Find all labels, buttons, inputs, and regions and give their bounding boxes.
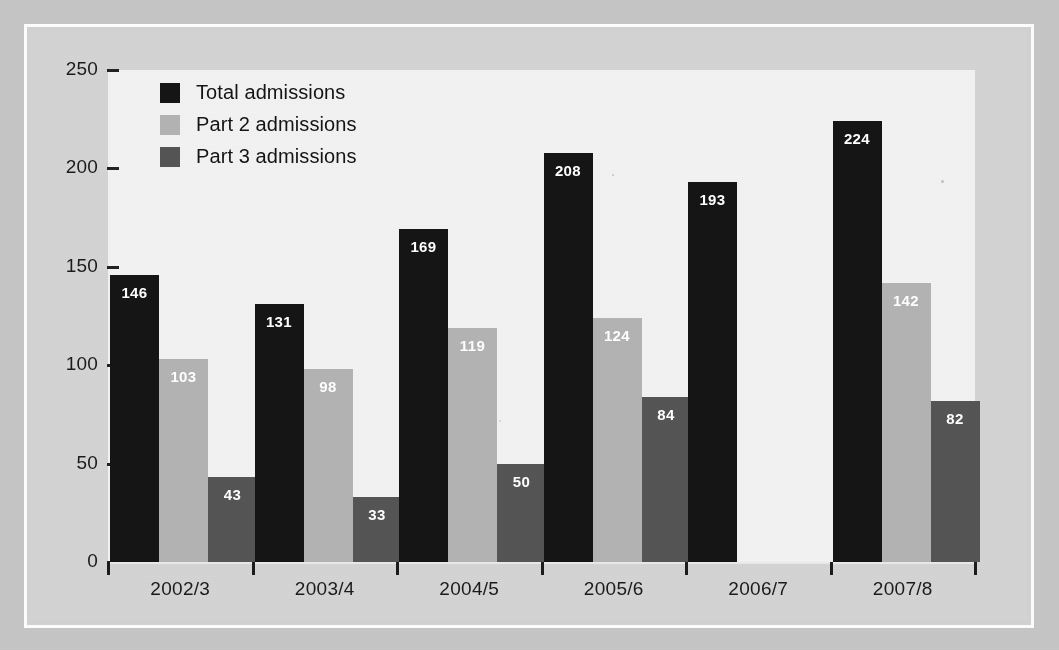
bar-value-label: 50 — [497, 473, 546, 490]
bar-value-label: 224 — [833, 130, 882, 147]
bar-value-label: 146 — [110, 284, 159, 301]
y-axis-tick — [107, 167, 119, 170]
bar-value-label: 43 — [208, 486, 257, 503]
bar: 208 — [544, 153, 593, 562]
bar: 193 — [688, 182, 737, 562]
bar-value-label: 82 — [931, 410, 980, 427]
y-axis-tick-label: 200 — [66, 156, 98, 178]
y-axis-tick-label: 100 — [66, 353, 98, 375]
legend-label: Part 3 admissions — [196, 145, 357, 168]
y-axis-tick-labels: 050100150200250 — [40, 70, 98, 563]
legend-swatch-icon — [160, 147, 180, 167]
y-axis-tick — [107, 266, 119, 269]
outer-frame: 050100150200250 2002/32003/42004/52005/6… — [0, 0, 1059, 650]
bar: 50 — [497, 464, 546, 562]
bar-value-label: 124 — [593, 327, 642, 344]
chart-legend: Total admissionsPart 2 admissionsPart 3 … — [160, 78, 357, 174]
bar: 98 — [304, 369, 353, 562]
bar-value-label: 193 — [688, 191, 737, 208]
bar-value-label: 208 — [544, 162, 593, 179]
bar: 169 — [399, 229, 448, 562]
x-axis-tick — [974, 562, 977, 575]
bar: 43 — [208, 477, 257, 562]
bar-chart: 050100150200250 2002/32003/42004/52005/6… — [0, 0, 1059, 650]
x-axis-category-label: 2006/7 — [686, 578, 831, 600]
y-axis-tick-label: 50 — [76, 452, 98, 474]
bar: 119 — [448, 328, 497, 562]
bar-value-label: 142 — [882, 292, 931, 309]
y-axis-tick — [107, 69, 119, 72]
x-axis-tick — [685, 562, 688, 575]
legend-item: Part 2 admissions — [160, 110, 357, 139]
bar-value-label: 119 — [448, 337, 497, 354]
bar: 103 — [159, 359, 208, 562]
y-axis — [107, 70, 109, 563]
x-axis-tick — [107, 562, 110, 575]
x-axis-tick — [541, 562, 544, 575]
bar: 146 — [110, 275, 159, 562]
x-axis-category-label: 2007/8 — [831, 578, 976, 600]
bar-value-label: 103 — [159, 368, 208, 385]
x-axis-category-label: 2002/3 — [108, 578, 253, 600]
y-axis-tick-label: 0 — [87, 550, 98, 572]
bar: 82 — [931, 401, 980, 562]
bar: 33 — [353, 497, 402, 562]
bar-value-label: 84 — [642, 406, 691, 423]
bar-value-label: 98 — [304, 378, 353, 395]
x-axis-category-label: 2004/5 — [397, 578, 542, 600]
x-axis-tick — [830, 562, 833, 575]
x-axis-category-label: 2005/6 — [542, 578, 687, 600]
x-axis-tick — [252, 562, 255, 575]
bar: 142 — [882, 283, 931, 562]
legend-item: Part 3 admissions — [160, 142, 357, 171]
bar: 124 — [593, 318, 642, 562]
y-axis-tick-label: 250 — [66, 58, 98, 80]
legend-swatch-icon — [160, 115, 180, 135]
x-axis-tick — [396, 562, 399, 575]
y-axis-tick-label: 150 — [66, 255, 98, 277]
legend-item: Total admissions — [160, 78, 357, 107]
bar-value-label: 169 — [399, 238, 448, 255]
legend-swatch-icon — [160, 83, 180, 103]
legend-label: Part 2 admissions — [196, 113, 357, 136]
bar-value-label: 33 — [353, 506, 402, 523]
x-axis-category-label: 2003/4 — [253, 578, 398, 600]
legend-label: Total admissions — [196, 81, 345, 104]
bar: 224 — [833, 121, 882, 562]
bar: 131 — [255, 304, 304, 562]
bar-value-label: 131 — [255, 313, 304, 330]
bar: 84 — [642, 397, 691, 562]
